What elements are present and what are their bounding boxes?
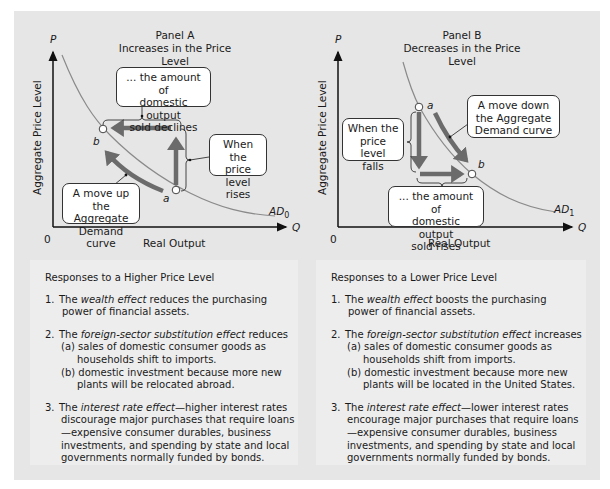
panel-a-label-b: b [93,135,100,147]
higher-price-responses: Responses to a Higher Price Level 1.The … [30,260,298,465]
panel-b-title: Panel B Decreases in the Price Level [392,29,532,68]
panel-a-p-symbol: P [50,33,56,45]
panel-b-label-a: a [427,99,433,111]
panel-b-p-symbol: P [335,33,341,45]
higher-item-foreign: 2.The foreign-sector substitution effect… [45,329,298,392]
panel-a-q-symbol: Q [292,221,300,233]
panel-a-origin: 0 [44,233,51,245]
panel-a-callout-price: When theprice levelrises [209,134,267,176]
panel-b-point-b [468,170,476,178]
panel-b-callout-output: ... the amount ofdomestic outputsold ris… [388,186,484,227]
panel-a-title: Panel A Increases in the Price Level [110,29,240,68]
higher-item-interest: 3.The interest rate effect—higher intere… [45,402,298,465]
panel-a-callout-output: ... the amount ofdomestic outputsold dec… [116,67,211,107]
panel-a-point-a [172,186,180,194]
panel-b-point-a [415,103,423,111]
panel-a-x-label: Real Output [143,237,205,249]
lower-title: Responses to a Lower Price Level [331,272,586,285]
lower-price-responses: Responses to a Lower Price Level 1.The w… [316,260,586,465]
panel-a-right-brace [181,129,190,191]
panel-b-callout-move: A move downthe AggregateDemand curve [467,95,560,138]
higher-item-wealth: 1.The wealth effect reduces the purchasi… [45,294,298,319]
panel-b-label-b: b [478,158,485,170]
panel-a-y-label: Aggregate Price Level [31,75,43,195]
panel-b-left-brace [407,112,416,172]
lower-item-wealth: 1.The wealth effect boosts the purchasin… [331,294,586,319]
panel-b-ad-label: AD1 [554,203,574,218]
panel-a-callout-move: A move upthe AggregateDemand curve [62,183,140,224]
panel-a-point-b [99,125,107,133]
panel-b-y-label: Aggregate Price Level [316,75,328,195]
higher-title: Responses to a Higher Price Level [45,272,298,285]
panel-b-callout-price: When theprice levelfalls [342,118,404,161]
panel-a-label-a: a [163,192,169,204]
panel-a-ad-label: AD0 [269,205,289,220]
panel-b-q-symbol: Q [578,221,586,233]
panel-b-origin: 0 [330,233,337,245]
lower-item-interest: 3.The interest rate effect—lower interes… [331,402,586,465]
lower-item-foreign: 2.The foreign-sector substitution effect… [331,329,586,392]
